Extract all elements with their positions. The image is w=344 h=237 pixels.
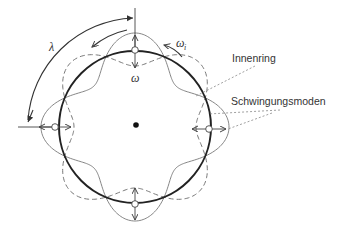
node-top [132,35,139,68]
node-bottom [132,188,139,220]
omega-i-subscript: i [184,43,186,52]
omega-label: ω [131,71,139,85]
leader-innenring [196,66,255,96]
node-right [192,126,226,133]
node-left [39,124,71,131]
ring-vibration-diagram: λ ω ω i Innenring Schwingungsmoden [0,0,344,237]
leader-modes-1 [208,110,280,114]
wavelength-label: λ [48,40,54,54]
schwingungsmoden-label: Schwingungsmoden [231,95,326,107]
leader-modes-2 [228,113,272,129]
center-dot [133,122,139,128]
innenring-label: Innenring [232,52,276,64]
rotation-arrow-omega-left [92,30,127,47]
